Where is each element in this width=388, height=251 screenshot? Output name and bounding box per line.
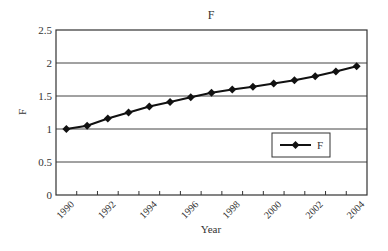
x-tick-label: 1990 bbox=[54, 199, 76, 221]
x-tick-label: 1996 bbox=[179, 199, 201, 221]
x-tick-label: 1992 bbox=[96, 199, 118, 221]
y-tick-label: 0 bbox=[47, 189, 53, 201]
x-tick-label: 1994 bbox=[137, 199, 159, 221]
data-point-diamond-icon bbox=[145, 103, 153, 111]
data-point-diamond-icon bbox=[104, 114, 112, 122]
y-tick-label: 1 bbox=[47, 123, 53, 135]
y-tick-label: 2.5 bbox=[38, 24, 52, 36]
y-tick-label: 1.5 bbox=[38, 90, 52, 102]
y-tick-label: 2 bbox=[47, 57, 53, 69]
data-point-diamond-icon bbox=[125, 109, 133, 117]
x-tick-label: 2000 bbox=[262, 199, 284, 221]
line-chart: F 00.511.522.5 1990199219941996199820002… bbox=[0, 0, 388, 251]
x-tick-label: 1998 bbox=[220, 199, 242, 221]
data-point-diamond-icon bbox=[332, 68, 340, 76]
x-tick-label: 2002 bbox=[303, 199, 325, 221]
x-axis-label: Year bbox=[201, 223, 222, 235]
data-point-diamond-icon bbox=[187, 93, 195, 101]
data-point-diamond-icon bbox=[166, 98, 174, 106]
y-tick-label: 0.5 bbox=[38, 156, 52, 168]
data-point-diamond-icon bbox=[228, 85, 236, 93]
data-point-diamond-icon bbox=[249, 83, 257, 91]
y-axis-ticks: 00.511.522.5 bbox=[38, 24, 52, 201]
chart-title: F bbox=[208, 8, 215, 22]
legend-label-F: F bbox=[317, 139, 323, 151]
data-point-diamond-icon bbox=[270, 79, 278, 87]
plot-area-frame bbox=[56, 30, 367, 195]
legend: F bbox=[272, 133, 330, 157]
x-tick-label: 2004 bbox=[344, 199, 366, 221]
series-F bbox=[62, 62, 360, 133]
y-axis-label: F bbox=[16, 109, 28, 115]
data-point-diamond-icon bbox=[62, 125, 70, 133]
data-point-diamond-icon bbox=[290, 76, 298, 84]
data-point-diamond-icon bbox=[311, 72, 319, 80]
